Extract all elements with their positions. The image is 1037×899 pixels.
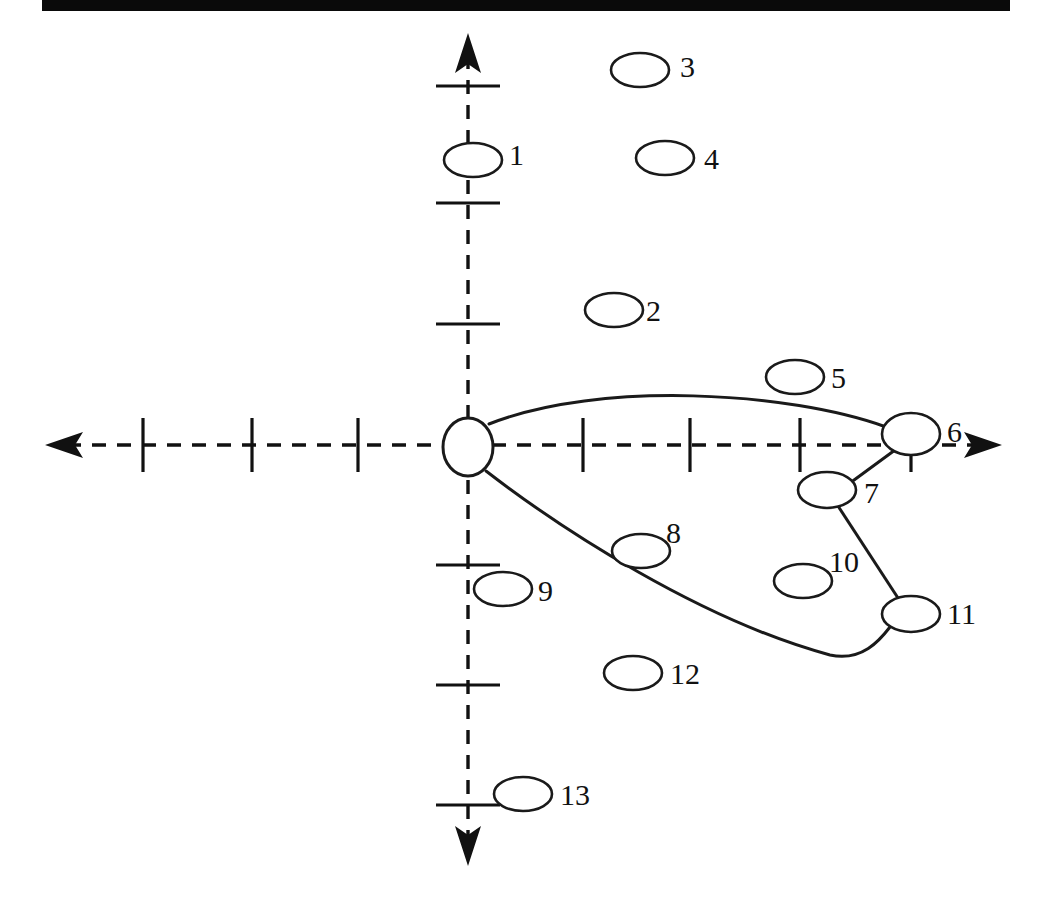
node-13[interactable] — [494, 777, 552, 811]
edges-group — [486, 396, 898, 657]
coordinate-diagram: 12345678910111213 — [0, 0, 1037, 899]
node-label-9: 9 — [538, 574, 553, 607]
node-8[interactable] — [612, 534, 670, 568]
node-3[interactable] — [611, 53, 669, 87]
node-label-3: 3 — [680, 50, 695, 83]
node-label-1: 1 — [509, 138, 524, 171]
node-label-5: 5 — [831, 361, 846, 394]
node-7[interactable] — [798, 472, 856, 508]
node-label-4: 4 — [704, 142, 719, 175]
node-label-6: 6 — [947, 415, 962, 448]
node-label-10: 10 — [829, 545, 859, 578]
edge-origin-to-6 — [489, 396, 886, 427]
node-4[interactable] — [636, 141, 694, 175]
node-label-8: 8 — [666, 516, 681, 549]
node-1[interactable] — [444, 143, 502, 177]
node-6[interactable] — [882, 413, 940, 455]
node-origin[interactable] — [443, 418, 493, 476]
figure-canvas: 12345678910111213 — [0, 0, 1037, 899]
node-10[interactable] — [774, 564, 832, 598]
node-label-13: 13 — [560, 778, 590, 811]
node-2[interactable] — [585, 293, 643, 327]
node-label-11: 11 — [947, 597, 976, 630]
node-5[interactable] — [766, 360, 824, 394]
node-label-12: 12 — [670, 657, 700, 690]
node-9[interactable] — [474, 572, 532, 606]
node-label-7: 7 — [864, 476, 879, 509]
node-11[interactable] — [882, 596, 940, 632]
node-12[interactable] — [604, 656, 662, 690]
node-label-2: 2 — [646, 294, 661, 327]
